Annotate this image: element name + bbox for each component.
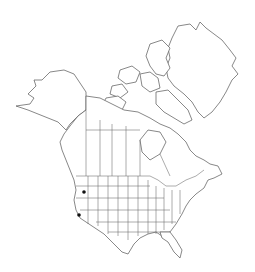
north-america-map	[0, 0, 255, 272]
arctic-islands	[146, 40, 170, 76]
occurrence-marker-oregon	[82, 190, 86, 194]
arctic-island	[110, 84, 128, 98]
occurrence-marker-california	[77, 213, 81, 217]
arctic-island	[118, 66, 140, 84]
florida	[160, 232, 182, 258]
arctic-island	[140, 72, 160, 92]
